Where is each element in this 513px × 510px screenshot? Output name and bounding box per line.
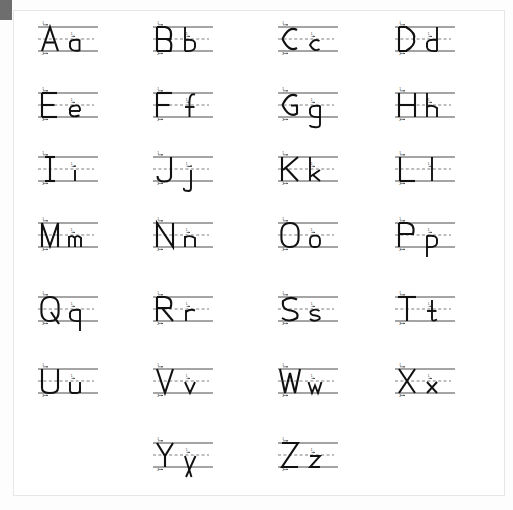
lowercase-k-stroke-3 [313, 175, 321, 182]
letter-cell-Dd: 121 [393, 19, 485, 65]
stroke-arrowhead-1 [162, 440, 163, 442]
stroke-number-1: 1 [157, 87, 159, 91]
letter-cell-Zz: 121 [276, 435, 368, 481]
stroke-arrowhead-1 [404, 154, 405, 156]
stroke-arrowhead-3 [189, 378, 190, 380]
stroke-arrowhead-1 [162, 154, 163, 156]
stroke-number-1: 1 [282, 21, 284, 25]
worksheet-sheet: 1211211211211211211211211211211211211211… [13, 10, 505, 496]
letter-cell-Tt: 121 [393, 289, 485, 335]
stroke-number-2: 2 [282, 468, 284, 472]
stroke-arrowhead-3 [431, 102, 432, 104]
stroke-arrowhead-3 [431, 378, 432, 380]
stroke-arrowhead-2 [404, 119, 405, 121]
stroke-arrowhead-3 [314, 36, 315, 38]
stroke-number-3: 1 [311, 302, 313, 306]
stroke-arrowhead-3 [314, 102, 315, 104]
stroke-number-1: 1 [399, 217, 401, 221]
stroke-arrowhead-1 [287, 366, 288, 368]
stroke-number-2: 2 [399, 248, 401, 252]
stroke-number-2: 2 [42, 52, 44, 56]
stroke-number-2: 2 [157, 468, 159, 472]
stroke-number-3: 1 [311, 32, 313, 36]
stroke-arrowhead-3 [431, 36, 432, 38]
stroke-number-2: 2 [42, 182, 44, 186]
letter-cell-Ss: 121 [276, 289, 368, 335]
stroke-number-1: 1 [399, 363, 401, 367]
stroke-number-2: 2 [157, 52, 159, 56]
stroke-arrowhead-3 [74, 232, 75, 234]
stroke-arrowhead-1 [404, 366, 405, 368]
stroke-number-2: 2 [282, 394, 284, 398]
lowercase-f-stroke-1 [189, 94, 195, 117]
stroke-number-2: 2 [157, 182, 159, 186]
stroke-arrowhead-3 [189, 306, 190, 308]
letter-cell-Ii: 121 [36, 149, 128, 195]
stroke-number-3: 1 [311, 448, 313, 452]
lowercase-v-stroke-1 [185, 382, 195, 393]
stroke-number-3: 1 [311, 162, 313, 166]
stroke-arrowhead-2 [287, 53, 288, 55]
stroke-arrowhead-1 [47, 366, 48, 368]
stroke-arrowhead-2 [404, 249, 405, 251]
stroke-arrowhead-2 [47, 53, 48, 55]
stroke-number-1: 1 [157, 437, 159, 441]
stroke-number-2: 2 [399, 52, 401, 56]
stroke-arrowhead-1 [47, 24, 48, 26]
stroke-number-3: 1 [186, 374, 188, 378]
letter-cell-Uu: 121 [36, 361, 128, 407]
stroke-number-3: 1 [428, 228, 430, 232]
stroke-number-2: 2 [157, 248, 159, 252]
stroke-arrowhead-1 [47, 154, 48, 156]
letter-cell-Aa: 121 [36, 19, 128, 65]
stroke-arrowhead-1 [47, 90, 48, 92]
lowercase-a-stroke-2 [70, 40, 80, 51]
lowercase-p-stroke-2 [427, 236, 437, 247]
stroke-number-1: 1 [157, 217, 159, 221]
stroke-number-2: 2 [282, 118, 284, 122]
stroke-arrowhead-2 [287, 249, 288, 251]
stroke-number-3: 1 [311, 98, 313, 102]
stroke-number-2: 2 [157, 394, 159, 398]
stroke-arrowhead-1 [287, 24, 288, 26]
stroke-arrowhead-2 [404, 183, 405, 185]
stroke-number-3: 1 [186, 302, 188, 306]
stroke-number-3: 1 [186, 32, 188, 36]
stroke-number-2: 2 [282, 182, 284, 186]
stroke-arrowhead-3 [189, 166, 190, 168]
uppercase-B-stroke-3 [157, 39, 171, 51]
stroke-number-1: 1 [42, 87, 44, 91]
stroke-arrowhead-2 [162, 323, 163, 325]
stroke-arrowhead-2 [404, 395, 405, 397]
uppercase-R-stroke-2 [157, 297, 171, 308]
lowercase-w-stroke-1 [309, 382, 322, 393]
stroke-arrowhead-2 [287, 119, 288, 121]
stroke-number-3: 1 [311, 228, 313, 232]
stroke-arrowhead-3 [314, 166, 315, 168]
stroke-number-3: 1 [71, 228, 73, 232]
letter-cell-Pp: 121 [393, 215, 485, 261]
stroke-number-2: 2 [42, 248, 44, 252]
stroke-arrowhead-3 [314, 306, 315, 308]
lowercase-k-stroke-2 [311, 170, 321, 177]
stroke-arrowhead-2 [404, 323, 405, 325]
letter-cell-Rr: 121 [151, 289, 243, 335]
stroke-number-1: 1 [399, 21, 401, 25]
stroke-arrowhead-2 [162, 119, 163, 121]
stroke-number-3: 1 [428, 374, 430, 378]
stroke-number-1: 1 [42, 151, 44, 155]
stroke-arrowhead-2 [47, 183, 48, 185]
stroke-arrowhead-1 [162, 90, 163, 92]
stroke-arrowhead-1 [47, 220, 48, 222]
stroke-number-1: 1 [399, 291, 401, 295]
stroke-number-2: 2 [157, 322, 159, 326]
stroke-number-2: 2 [399, 118, 401, 122]
stroke-arrowhead-1 [404, 90, 405, 92]
stroke-arrowhead-3 [189, 452, 190, 454]
stroke-number-2: 2 [42, 394, 44, 398]
letter-cell-Xx: 121 [393, 361, 485, 407]
stroke-number-1: 1 [157, 21, 159, 25]
letter-cell-Ee: 121 [36, 85, 128, 131]
letter-cell-Vv: 121 [151, 361, 243, 407]
letter-cell-Nn: 121 [151, 215, 243, 261]
